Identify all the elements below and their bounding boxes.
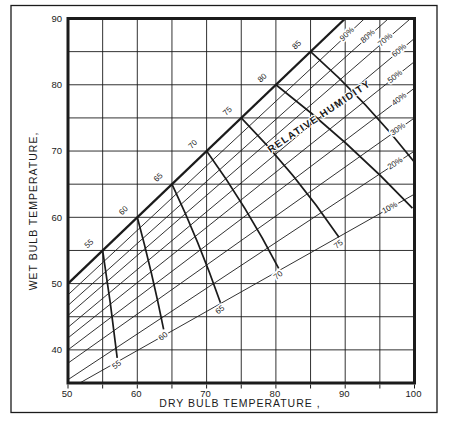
wet-bulb-curve — [172, 184, 221, 303]
relative-humidity-line-label: 60% — [390, 42, 408, 59]
relative-humidity-line-label: 20% — [386, 155, 404, 171]
relative-humidity-line-label: 10% — [381, 200, 399, 216]
y-tick-label: 50 — [51, 278, 62, 289]
relative-humidity-line-label: 40% — [390, 91, 408, 108]
wet-bulb-curve-end-label: 65 — [214, 303, 227, 316]
wet-bulb-curve-start-label: 85 — [290, 38, 303, 51]
relative-humidity-line — [68, 19, 389, 306]
relative-humidity-line — [68, 19, 411, 316]
y-tick-label: 60 — [51, 212, 62, 223]
wet-bulb-curve — [103, 250, 118, 357]
y-tick-label: 40 — [51, 344, 62, 355]
relative-humidity-line-label: 30% — [389, 121, 407, 138]
x-tick-label: 50 — [62, 388, 73, 399]
wet-bulb-curve-start-label: 75 — [221, 104, 234, 117]
wet-bulb-curve-start-label: 70 — [187, 138, 200, 151]
wet-bulb-curve-end-label: 55 — [110, 358, 123, 371]
y-axis-title: WET BULB TEMPERATURE, — [27, 132, 39, 291]
scanned-chart-page: 90%80%70%60%50%40%30%20%10%5555606065657… — [0, 0, 456, 428]
relative-humidity-line-label: 70% — [376, 31, 394, 48]
wet-bulb-curve-end-label: 70 — [272, 269, 285, 282]
outer-border — [11, 6, 437, 413]
x-tick-label: 90 — [339, 388, 350, 399]
psychrometric-chart: 90%80%70%60%50%40%30%20%10%5555606065657… — [0, 0, 456, 428]
chart-layer — [68, 19, 415, 389]
y-tick-label: 80 — [51, 79, 62, 90]
label-layer: 90%80%70%60%50%40%30%20%10%5555606065657… — [51, 13, 421, 399]
x-tick-label: 100 — [406, 388, 422, 399]
y-tick-label: 70 — [51, 145, 62, 156]
wet-bulb-curve-start-label: 65 — [152, 171, 165, 184]
relative-humidity-line-label: 90% — [338, 25, 356, 43]
wet-bulb-curve-end-label: 60 — [157, 330, 170, 343]
x-tick-label: 60 — [131, 388, 142, 399]
relative-humidity-line-label: 80% — [359, 28, 377, 45]
relative-humidity-line-label: 50% — [386, 68, 404, 85]
wet-bulb-curve-start-label: 80 — [256, 71, 269, 84]
x-axis-title: DRY BULB TEMPERATURE , — [159, 397, 320, 409]
wet-bulb-curve-start-label: 60 — [117, 204, 130, 217]
y-tick-label: 90 — [51, 13, 62, 24]
wet-bulb-curve-start-label: 55 — [83, 237, 96, 250]
wet-bulb-curve — [137, 217, 163, 329]
